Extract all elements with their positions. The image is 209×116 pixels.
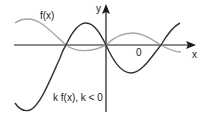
function-graph: y x 0 f(x) k f(x), k < 0 <box>0 0 209 116</box>
origin-label: 0 <box>136 47 142 58</box>
y-axis-label: y <box>96 3 101 14</box>
x-axis-label: x <box>192 49 197 60</box>
curve-f-label: f(x) <box>40 10 54 21</box>
curve-f <box>15 19 181 52</box>
curve-kf-label: k f(x), k < 0 <box>53 92 103 103</box>
